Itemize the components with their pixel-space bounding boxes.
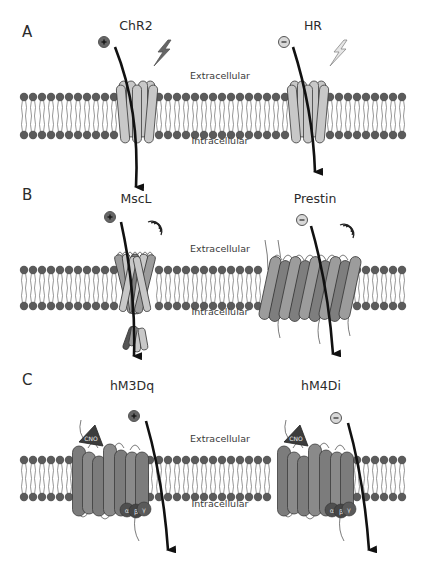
lipid-head bbox=[209, 266, 217, 274]
lipid-head bbox=[371, 266, 379, 274]
lipid-head bbox=[29, 493, 37, 501]
lipid-head bbox=[65, 302, 73, 310]
lipid-head bbox=[371, 493, 379, 501]
lipid-head bbox=[182, 456, 190, 464]
lipid-head bbox=[47, 302, 55, 310]
lipid-head bbox=[380, 93, 388, 101]
lipid-head bbox=[38, 131, 46, 139]
lipid-head bbox=[74, 93, 82, 101]
lipid-head bbox=[74, 266, 82, 274]
lipid-head bbox=[182, 93, 190, 101]
lipid-head bbox=[29, 456, 37, 464]
lipid-head bbox=[182, 493, 190, 501]
lipid-head bbox=[29, 302, 37, 310]
lipid-head bbox=[173, 456, 181, 464]
lipid-head bbox=[380, 266, 388, 274]
lipid-head bbox=[263, 93, 271, 101]
lipid-head bbox=[191, 266, 199, 274]
lipid-head bbox=[281, 131, 289, 139]
label-hm4di: hM4Di bbox=[301, 378, 341, 393]
protein-hm3dq: CNOαβγ bbox=[73, 420, 152, 541]
lipid-head bbox=[164, 131, 172, 139]
lipid-head bbox=[353, 131, 361, 139]
lipid-head bbox=[335, 131, 343, 139]
lipid-head bbox=[326, 131, 334, 139]
lipid-head bbox=[398, 456, 406, 464]
g-protein: αβγ bbox=[120, 502, 151, 518]
lipid-head bbox=[227, 456, 235, 464]
panel-letter-a: A bbox=[22, 23, 32, 41]
lipid-head bbox=[47, 131, 55, 139]
lipid-head bbox=[209, 93, 217, 101]
lipid-head bbox=[38, 456, 46, 464]
lipid-head bbox=[56, 131, 64, 139]
lipid-head bbox=[29, 131, 37, 139]
lipid-head bbox=[227, 266, 235, 274]
lipid-head bbox=[371, 93, 379, 101]
lipid-head bbox=[182, 266, 190, 274]
lipid-head bbox=[92, 302, 100, 310]
label-extracellular-c: Extracellular bbox=[190, 433, 250, 444]
lipid-head bbox=[155, 266, 163, 274]
lipid-head bbox=[47, 456, 55, 464]
lipid-head bbox=[362, 456, 370, 464]
lipid-head bbox=[218, 456, 226, 464]
lipid-head bbox=[344, 131, 352, 139]
lipid-head bbox=[164, 493, 172, 501]
lipid-head bbox=[272, 93, 280, 101]
label-extracellular-a: Extracellular bbox=[190, 70, 250, 81]
lipid-head bbox=[20, 93, 28, 101]
lipid-head bbox=[56, 266, 64, 274]
label-intracellular-b: Intracellular bbox=[191, 306, 248, 317]
lipid-head bbox=[200, 266, 208, 274]
lipid-head bbox=[218, 266, 226, 274]
protein-chr2 bbox=[116, 81, 158, 143]
cno-ligand-icon: CNO bbox=[284, 425, 308, 446]
lipid-head bbox=[398, 266, 406, 274]
lipid-head bbox=[47, 93, 55, 101]
lipid-head bbox=[398, 131, 406, 139]
lipid-head bbox=[20, 131, 28, 139]
lipid-head bbox=[173, 93, 181, 101]
panel-letter-c: C bbox=[22, 371, 32, 389]
lipid-head bbox=[56, 493, 64, 501]
lipid-head bbox=[20, 456, 28, 464]
lipid-head bbox=[191, 456, 199, 464]
lipid-head bbox=[65, 493, 73, 501]
lipid-head bbox=[83, 131, 91, 139]
lipid-head bbox=[38, 493, 46, 501]
label-mscl: MscL bbox=[120, 191, 151, 206]
sound-wave-icon bbox=[148, 221, 162, 235]
lipid-head bbox=[380, 493, 388, 501]
lipid-head bbox=[47, 266, 55, 274]
lipid-head bbox=[38, 93, 46, 101]
lipid-head bbox=[209, 456, 217, 464]
lipid-head bbox=[83, 93, 91, 101]
lipid-head bbox=[38, 302, 46, 310]
lipid-head bbox=[65, 131, 73, 139]
lipid-head bbox=[344, 93, 352, 101]
lipid-head bbox=[398, 493, 406, 501]
lipid-head bbox=[263, 131, 271, 139]
label-intracellular-a: Intracellular bbox=[191, 135, 248, 146]
protein-hm4di: CNOαβγ bbox=[278, 420, 357, 541]
lipid-head bbox=[83, 266, 91, 274]
lipid-head bbox=[245, 266, 253, 274]
anion-icon bbox=[297, 215, 308, 226]
lipid-head bbox=[371, 456, 379, 464]
lipid-head bbox=[155, 131, 163, 139]
lipid-head bbox=[245, 93, 253, 101]
lipid-head bbox=[74, 131, 82, 139]
cation-icon bbox=[129, 411, 140, 422]
lipid-head bbox=[164, 302, 172, 310]
anion-icon bbox=[331, 413, 342, 424]
label-hr: HR bbox=[304, 18, 322, 33]
lipid-head bbox=[200, 456, 208, 464]
label-prestin: Prestin bbox=[294, 191, 337, 206]
lipid-head bbox=[20, 266, 28, 274]
lipid-head bbox=[65, 93, 73, 101]
lipid-head bbox=[200, 93, 208, 101]
lipid-head bbox=[353, 493, 361, 501]
g-subunit-label: α bbox=[330, 507, 334, 515]
cation-icon bbox=[105, 212, 116, 223]
